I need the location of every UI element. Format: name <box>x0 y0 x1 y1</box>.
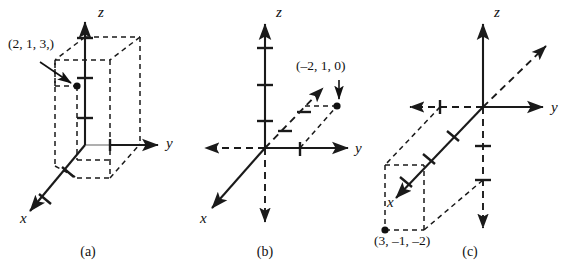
panel-a-box <box>55 37 140 178</box>
panel-c-z-axis-label: z <box>493 4 500 20</box>
panel-c-x-negative-axis <box>483 46 546 107</box>
panel-b-point-label: (–2, 1, 0) <box>296 58 346 73</box>
panel-c-caption: (c) <box>462 244 478 260</box>
panel-a-z-axis-label: z <box>97 4 104 20</box>
panel-a-x-axis-label: x <box>19 210 27 226</box>
panel-b-caption: (b) <box>257 244 274 260</box>
panel-c-box <box>385 107 483 230</box>
panel-a-plotted-point <box>73 82 80 89</box>
figure-container: (2, 1, 3,) x y z (a) <box>0 0 574 279</box>
panel-a-y-axis-label: y <box>164 135 173 151</box>
panel-c-point-label: (3, –1, –2) <box>374 233 430 248</box>
panel-b-x-axis <box>212 148 265 208</box>
three-panel-coordinate-figure: (2, 1, 3,) x y z (a) <box>0 0 574 279</box>
panel-b-x-axis-label: x <box>199 210 207 226</box>
panel-b-y-axis-label: y <box>353 140 362 156</box>
panel-b-z-axis-label: z <box>275 4 282 20</box>
panel-a-caption: (a) <box>80 244 96 260</box>
panel-c-x-axis-label: x <box>386 194 394 210</box>
panel-b-x-negative-axis <box>265 88 323 148</box>
panel-c: (3, –1, –2) x y z (c) <box>374 4 558 260</box>
panel-a-x-axis <box>30 145 85 211</box>
panel-b-plotted-point <box>333 102 340 109</box>
panel-c-y-axis-label: y <box>549 99 558 115</box>
panel-b: (–2, 1, 0) x y z (b) <box>199 4 362 260</box>
panel-a: (2, 1, 3,) x y z (a) <box>8 4 173 260</box>
panel-a-point-label: (2, 1, 3,) <box>8 36 54 51</box>
